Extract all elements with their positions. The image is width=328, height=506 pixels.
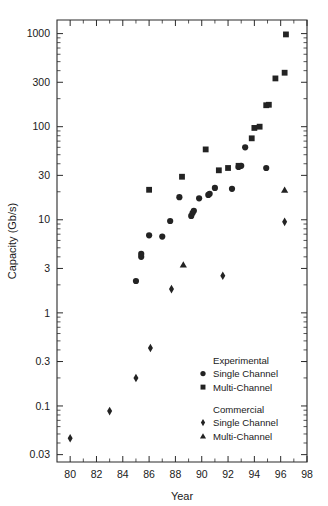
x-tick-label: 94: [249, 468, 261, 480]
data-point: [225, 165, 231, 171]
capacity-vs-year-scatter-plot: 80828486889092949698 0.030.10.3131030100…: [0, 0, 328, 506]
x-tick-label: 84: [117, 468, 129, 480]
x-axis-ticks: [70, 20, 307, 462]
legend-heading-experimental: Experimental: [213, 355, 269, 366]
y-axis-title: Capacity (Gb/s): [6, 203, 18, 279]
data-point: [273, 76, 279, 82]
series-experimental-single-channel: [133, 144, 269, 284]
data-point: [68, 434, 73, 443]
data-point: [138, 251, 144, 257]
legend-label: Single Channel: [213, 368, 278, 379]
data-point: [176, 194, 182, 200]
data-point: [242, 144, 248, 150]
data-point: [212, 185, 218, 191]
data-point: [282, 70, 288, 76]
data-point: [281, 186, 288, 192]
y-axis-tick-labels: 0.030.10.31310301003001000: [27, 27, 51, 460]
x-tick-label: 96: [275, 468, 287, 480]
legend-marker-square: [201, 385, 206, 390]
data-point: [249, 135, 255, 141]
data-point: [159, 233, 165, 239]
series-commercial-multi-channel: [180, 186, 289, 267]
data-point: [179, 174, 185, 180]
data-point: [133, 374, 138, 383]
data-point: [229, 186, 235, 192]
y-tick-label: 10: [38, 213, 50, 225]
x-tick-label: 98: [301, 468, 313, 480]
data-point: [180, 261, 187, 267]
y-tick-label: 3: [44, 262, 50, 274]
data-point: [283, 32, 289, 38]
data-point: [236, 163, 242, 169]
data-point: [251, 125, 257, 131]
legend-marker-diamond: [201, 419, 205, 426]
chart-page: 80828486889092949698 0.030.10.3131030100…: [0, 0, 328, 506]
legend-label: Single Channel: [213, 417, 278, 428]
y-tick-label: 300: [32, 76, 50, 88]
data-point: [203, 147, 209, 153]
legend-label: Multi-Channel: [213, 431, 272, 442]
data-point: [207, 191, 213, 197]
x-axis-title: Year: [171, 490, 194, 502]
x-axis-tick-labels: 80828486889092949698: [64, 468, 313, 480]
data-point: [263, 165, 269, 171]
data-point: [146, 187, 152, 193]
data-point: [107, 407, 112, 416]
x-tick-label: 82: [91, 468, 103, 480]
y-tick-label: 1000: [27, 27, 51, 39]
data-point: [146, 232, 152, 238]
data-point: [148, 344, 153, 353]
legend-label: Multi-Channel: [213, 382, 272, 393]
chart-legend: ExperimentalSingle ChannelMulti-ChannelC…: [200, 355, 278, 442]
y-tick-label: 0.03: [30, 448, 51, 460]
data-point: [220, 272, 225, 281]
plot-frame: [57, 20, 307, 462]
data-point: [282, 218, 287, 227]
y-tick-label: 30: [38, 169, 50, 181]
data-point: [133, 278, 139, 284]
legend-marker-circle: [200, 371, 205, 376]
legend-heading-commercial: Commercial: [213, 404, 264, 415]
data-point: [257, 124, 263, 130]
y-tick-label: 1: [44, 307, 50, 319]
x-tick-label: 92: [222, 468, 234, 480]
data-point: [191, 208, 197, 214]
y-tick-label: 0.3: [35, 355, 50, 367]
legend-marker-triangle: [200, 433, 206, 438]
x-tick-label: 90: [196, 468, 208, 480]
data-point: [167, 218, 173, 224]
data-point: [169, 285, 174, 294]
data-point: [266, 102, 272, 108]
axes-frame: [57, 20, 307, 462]
y-tick-label: 100: [32, 120, 50, 132]
data-point: [216, 167, 222, 173]
x-tick-label: 86: [143, 468, 155, 480]
y-tick-label: 0.1: [35, 400, 50, 412]
x-tick-label: 88: [170, 468, 182, 480]
data-point: [196, 195, 202, 201]
x-tick-label: 80: [64, 468, 76, 480]
